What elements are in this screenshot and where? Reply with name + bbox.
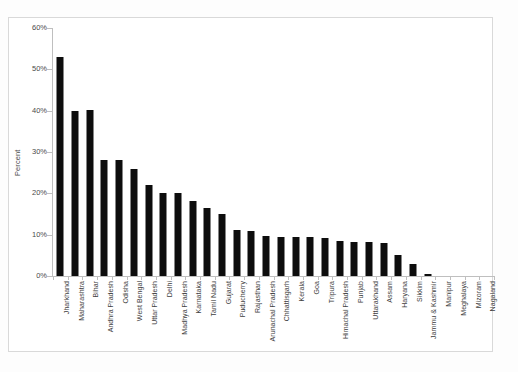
bar-slot <box>479 28 494 276</box>
y-axis-labels: 0%10%20%30%40%50%60% <box>9 18 47 351</box>
x-axis-category-label: Uttar Pradesh <box>151 281 158 325</box>
bar <box>424 274 431 276</box>
bar <box>410 264 417 276</box>
bar <box>263 236 270 276</box>
x-axis-category-label: Sikkim <box>416 281 423 302</box>
chart-frame: 0%10%20%30%40%50%60% Percent JharkhandMa… <box>8 17 493 352</box>
bar-slot <box>171 28 186 276</box>
x-axis-tick <box>362 276 363 280</box>
bar <box>395 255 402 276</box>
x-axis-category-label: Nagaland <box>489 281 496 311</box>
bar-slot <box>244 28 259 276</box>
bar <box>130 169 137 276</box>
bar <box>248 231 255 276</box>
x-axis-tick <box>376 276 377 280</box>
x-axis-tick <box>82 276 83 280</box>
y-axis-tick <box>47 111 52 112</box>
x-axis-tick <box>288 276 289 280</box>
bar-slot <box>97 28 112 276</box>
x-axis-category-label: Assam <box>386 281 393 303</box>
bar <box>57 57 64 276</box>
y-axis-tick-label: 50% <box>13 65 47 73</box>
bar <box>366 242 373 276</box>
bar-slot <box>450 28 465 276</box>
x-axis-category-label: Andhra Pradesh <box>107 281 114 332</box>
x-axis-tick <box>421 276 422 280</box>
bar <box>321 238 328 276</box>
x-axis-category-label: Arunachal Pradesh <box>269 281 276 341</box>
bar <box>219 214 226 276</box>
x-axis-tick <box>465 276 466 280</box>
x-axis-tick <box>53 276 54 280</box>
x-axis-category-label: Gujarat <box>225 281 232 304</box>
x-axis-category-label: Puducherry <box>239 281 246 317</box>
y-axis-tick-label: 0% <box>13 272 47 280</box>
y-axis-title: Percent <box>13 149 22 176</box>
x-axis-category-label: Karnataka <box>195 281 202 313</box>
x-axis-category-label: Chhattisgarh <box>283 281 290 321</box>
y-axis-tick <box>47 276 52 277</box>
x-axis-category-label: Odisha <box>122 281 129 303</box>
x-axis-category-label: Madhya Pradesh <box>181 281 188 335</box>
bar-slot <box>362 28 377 276</box>
bar <box>233 230 240 276</box>
x-axis-category-label: Tamil Nadu <box>210 281 217 317</box>
bar <box>174 193 181 276</box>
y-axis-tick <box>47 28 52 29</box>
bar <box>116 160 123 276</box>
x-axis-tick <box>68 276 69 280</box>
x-axis-category-label: Manipur <box>445 281 452 307</box>
bar-slot <box>274 28 289 276</box>
bar <box>351 242 358 276</box>
x-axis-tick <box>244 276 245 280</box>
bar <box>336 241 343 276</box>
y-axis-tick <box>47 69 52 70</box>
x-axis-tick <box>303 276 304 280</box>
y-axis-tick-label: 60% <box>13 24 47 32</box>
x-axis-tick <box>127 276 128 280</box>
x-axis-category-label: Maharashtra <box>78 281 85 321</box>
x-axis-tick <box>450 276 451 280</box>
x-axis-tick <box>259 276 260 280</box>
x-axis-tick <box>406 276 407 280</box>
y-axis-tick <box>47 193 52 194</box>
x-axis-tick <box>141 276 142 280</box>
x-axis-tick <box>318 276 319 280</box>
bar <box>189 201 196 276</box>
bar <box>292 237 299 276</box>
bar-slot <box>259 28 274 276</box>
x-axis-tick <box>112 276 113 280</box>
x-axis-category-label: Punjab <box>357 281 364 303</box>
bar <box>72 111 79 276</box>
bar-slot <box>156 28 171 276</box>
bar <box>145 185 152 276</box>
y-axis-tick-label: 10% <box>13 231 47 239</box>
x-axis-category-label: Himachal Pradesh <box>342 281 349 339</box>
bar-slot <box>391 28 406 276</box>
x-axis-tick <box>97 276 98 280</box>
x-axis-tick <box>171 276 172 280</box>
bar-slot <box>185 28 200 276</box>
bar-slot <box>332 28 347 276</box>
bar-slot <box>421 28 436 276</box>
bar-slot <box>68 28 83 276</box>
bar-series <box>53 28 494 276</box>
bar <box>277 237 284 276</box>
bar-slot <box>465 28 480 276</box>
bar-slot <box>200 28 215 276</box>
x-axis-tick <box>156 276 157 280</box>
y-axis-tick-label: 40% <box>13 107 47 115</box>
bar-slot <box>347 28 362 276</box>
bar-slot <box>82 28 97 276</box>
x-axis-tick <box>274 276 275 280</box>
bar-slot <box>127 28 142 276</box>
x-axis-tick <box>391 276 392 280</box>
x-axis-tick <box>494 276 495 280</box>
x-axis-tick <box>332 276 333 280</box>
x-axis-category-label: Mizoram <box>475 281 482 308</box>
x-axis-tick <box>435 276 436 280</box>
bar-slot <box>229 28 244 276</box>
bar <box>86 110 93 276</box>
x-axis-tick <box>200 276 201 280</box>
x-axis-tick <box>185 276 186 280</box>
